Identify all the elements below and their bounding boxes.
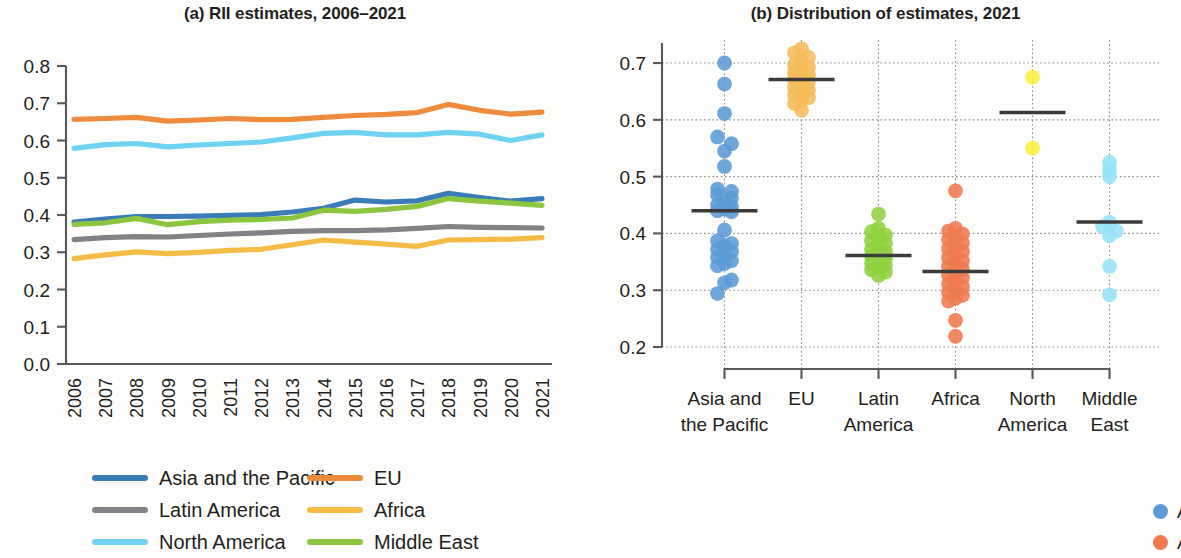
panel-a-x-tick-label: 2018 xyxy=(439,378,459,418)
panel-b-data-point xyxy=(717,159,732,174)
panel-b-data-point xyxy=(948,313,963,328)
panel-b-data-point xyxy=(941,294,956,309)
panel-b-category-label: Middle xyxy=(1082,388,1138,409)
panel-a-x-tick-label: 2013 xyxy=(283,378,303,418)
panel-a-x-tick-label: 2019 xyxy=(471,378,491,418)
panel-a-x-tick-label: 2007 xyxy=(96,378,116,418)
legend-a-item-label: North America xyxy=(159,531,286,554)
panel-a-x-tick-label: 2010 xyxy=(190,378,210,418)
legend-a-item-label: Africa xyxy=(374,499,425,522)
legend-a-line-swatch xyxy=(92,539,148,545)
legend-a-item-label: Middle East xyxy=(374,531,479,554)
panel-a-y-tick-label: 0.1 xyxy=(24,317,50,338)
panel-b-y-tick-label: 0.4 xyxy=(620,223,647,244)
panel-b-data-point xyxy=(710,130,725,145)
panel-b-category-label: Latin xyxy=(858,388,899,409)
legend-b-item: Africa xyxy=(1153,532,1181,554)
panel-a-y-tick-label: 0.7 xyxy=(24,93,50,114)
panel-b-data-point xyxy=(717,106,732,121)
legend-a-item: Africa xyxy=(307,499,557,522)
panel-a-y-tick-label: 0.0 xyxy=(24,354,50,375)
panel-b-data-point xyxy=(1102,287,1117,302)
panel-a-x-tick-label: 2006 xyxy=(65,378,85,418)
legend-b-dot-swatch xyxy=(1153,535,1168,550)
panel-b-y-tick-label: 0.7 xyxy=(620,53,646,74)
panel-b-plot: 0.20.30.40.50.60.7Asia andthe PacificEUL… xyxy=(590,0,1181,460)
panel-b-data-point xyxy=(710,258,725,273)
panel-b-data-point xyxy=(871,268,886,283)
panel-a-y-tick-label: 0.2 xyxy=(24,280,50,301)
panel-b-category-label: America xyxy=(998,414,1068,435)
panel-a-x-tick-label: 2009 xyxy=(159,378,179,418)
panel-b-data-point xyxy=(717,77,732,92)
panel-a-series-line xyxy=(74,238,542,259)
panel-b-category-label: Asia and xyxy=(688,388,762,409)
panel-b-y-tick-label: 0.5 xyxy=(620,167,646,188)
panel-a-x-tick-label: 2020 xyxy=(502,378,522,418)
panel-b-data-point xyxy=(871,207,886,222)
panel-a-x-tick-label: 2012 xyxy=(252,378,272,418)
panel-b-y-tick-label: 0.2 xyxy=(620,337,646,358)
legend-b-item-label: Africa xyxy=(1177,532,1181,554)
panel-b-data-point xyxy=(1025,70,1040,85)
panel-a-x-tick-label: 2015 xyxy=(346,378,366,418)
panel-a-x-tick-label: 2014 xyxy=(315,378,335,418)
panel-b-category-label: America xyxy=(844,414,914,435)
panel-a-x-tick-label: 2016 xyxy=(377,378,397,418)
panel-a-legend: Asia and the PacificEULatin AmericaAfric… xyxy=(92,462,562,558)
legend-a-item: EU xyxy=(307,467,557,490)
panel-a-series-line xyxy=(74,132,542,148)
panel-a-y-tick-label: 0.6 xyxy=(24,131,50,152)
legend-a-line-swatch xyxy=(92,475,148,481)
panel-a-y-tick-label: 0.4 xyxy=(24,205,51,226)
panel-b-data-point xyxy=(717,56,732,71)
legend-a-item: Latin America xyxy=(92,499,307,522)
panel-b-data-point xyxy=(1102,169,1117,184)
legend-a-line-swatch xyxy=(307,539,363,545)
legend-a-line-swatch xyxy=(307,475,363,481)
legend-b-dot-swatch xyxy=(1153,504,1168,519)
legend-a-item: North America xyxy=(92,531,307,554)
panel-a-plot: 0.00.10.20.30.40.50.60.70.82006200720082… xyxy=(0,0,590,450)
panel-b-category-label: the Pacific xyxy=(681,414,769,435)
panel-a-x-tick-label: 2021 xyxy=(533,378,553,418)
panel-b-data-point xyxy=(794,103,809,118)
panel-b-category-label: Africa xyxy=(931,388,980,409)
panel-a-y-tick-label: 0.3 xyxy=(24,242,50,263)
panel-b-category-label: EU xyxy=(788,388,814,409)
panel-b-data-point xyxy=(948,183,963,198)
panel-b-data-point xyxy=(1102,259,1117,274)
legend-a-line-swatch xyxy=(307,507,363,513)
panel-b-data-point xyxy=(710,286,725,301)
legend-a-line-swatch xyxy=(92,507,148,513)
panel-a-series-line xyxy=(74,199,542,225)
panel-b-data-point xyxy=(948,329,963,344)
panel-a-x-tick-label: 2017 xyxy=(408,378,428,418)
legend-b-item: Asia and the Pacific xyxy=(1153,501,1181,523)
panel-b-category-label: North xyxy=(1009,388,1055,409)
panel-a-y-tick-label: 0.5 xyxy=(24,168,50,189)
panel-b-scatter-chart: (b) Distribution of estimates, 2021 0.20… xyxy=(590,0,1181,558)
legend-b-item-label: Asia and the Pacific xyxy=(1177,501,1181,523)
panel-a-line-chart: (a) RII estimates, 2006–2021 0.00.10.20.… xyxy=(0,0,590,558)
legend-a-item: Asia and the Pacific xyxy=(92,467,307,490)
panel-b-data-point xyxy=(717,144,732,159)
panel-a-series-line xyxy=(74,104,542,121)
panel-b-y-tick-label: 0.3 xyxy=(620,280,646,301)
panel-b-legend: Asia and the PacificEULatin AmericaAfric… xyxy=(1153,496,1181,558)
panel-b-category-label: East xyxy=(1090,414,1129,435)
panel-a-x-tick-label: 2008 xyxy=(127,378,147,418)
panel-b-data-point xyxy=(1025,141,1040,156)
legend-a-item-label: EU xyxy=(374,467,402,490)
panel-b-data-point xyxy=(1102,228,1117,243)
panel-b-y-tick-label: 0.6 xyxy=(620,110,646,131)
panel-a-y-tick-label: 0.8 xyxy=(24,56,50,77)
panel-a-x-tick-label: 2011 xyxy=(221,378,241,417)
legend-a-item-label: Latin America xyxy=(159,499,280,522)
legend-a-item: Middle East xyxy=(307,531,557,554)
